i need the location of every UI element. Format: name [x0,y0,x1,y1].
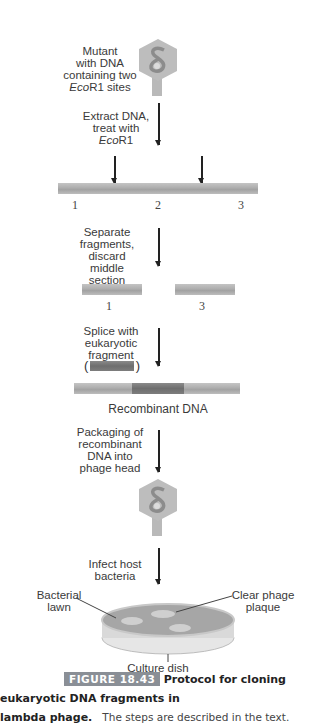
recombinant-dna-bar [74,383,240,394]
cut-site-arrow-icon [201,156,203,183]
step-extract-label: Extract DNA, treat with EcoR1 [78,110,154,146]
step-mutant-label: Mutant with DNA containing two EcoR1 sit… [58,45,142,93]
caption-title-cont: lambda phage. [0,711,92,724]
figure-number-badge: FIGURE 18.43 [64,672,160,686]
phage-icon [136,38,180,98]
bacterial-lawn-label: Bacterial lawn [34,589,84,613]
recombinant-phage-icon [136,478,180,538]
figure-caption: FIGURE 18.43 Protocol for cloning eukary… [0,670,327,727]
recombinant-dna-label: Recombinant DNA [98,403,218,415]
phage-plaque-label: Clear phage plaque [228,589,298,613]
arrow-down-icon [158,103,160,145]
step-packaging-label: Packaging of recombinant DNA into phage … [74,426,146,474]
arrow-down-icon [158,228,160,266]
step-splice-label: Splice with eukaryotic fragment [76,325,146,361]
fragment-label: 1 [106,299,112,314]
eukaryotic-fragment: ( ) [84,359,140,373]
dna-segment-label: 1 [72,198,78,213]
cut-site-arrow-icon [114,156,116,183]
dna-fragment-3 [175,284,235,295]
dna-fragment-1 [82,284,142,295]
caption-text: The steps are described in the text. [102,711,289,723]
step-infect-label: Infect host bacteria [80,558,150,582]
fragment-label: 3 [199,299,205,314]
phage-dna-bar [58,183,258,194]
arrow-down-icon [158,328,160,366]
arrow-down-icon [158,548,160,584]
arrow-down-icon [158,430,160,472]
step-separate-label: Separate fragments, discard middle secti… [70,226,144,286]
dna-segment-label: 2 [155,198,161,213]
dna-segment-label: 3 [238,198,244,213]
